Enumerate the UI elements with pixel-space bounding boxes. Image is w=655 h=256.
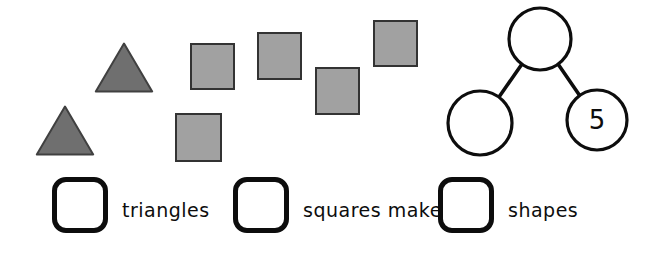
answer-box-triangles[interactable] (52, 177, 108, 233)
fill-in-group-shapes: shapes (438, 177, 578, 233)
answer-box-squares[interactable] (233, 177, 289, 233)
answer-box-shapes[interactable] (438, 177, 494, 233)
worksheet-page: 5 triangles squares make shapes (0, 0, 655, 256)
bond-link-right (558, 64, 580, 96)
bond-part-circle-left[interactable] (448, 91, 512, 155)
answer-label-shapes: shapes (508, 199, 578, 221)
answer-label-squares-make: squares make (303, 199, 442, 221)
triangle-shape (94, 42, 154, 93)
square-shape (190, 43, 235, 90)
square-shape (175, 113, 222, 162)
fill-in-group-squares: squares make (233, 177, 442, 233)
square-shape (373, 20, 418, 67)
bond-whole-circle[interactable] (509, 8, 571, 70)
square-shape (315, 67, 360, 115)
number-bond-diagram: 5 (440, 2, 640, 160)
fill-in-group-triangles: triangles (52, 177, 210, 233)
bond-link-left (499, 64, 522, 97)
bond-part-value-right: 5 (589, 105, 606, 135)
triangle-shape (35, 105, 95, 156)
square-shape (257, 32, 302, 80)
answer-label-triangles: triangles (122, 199, 210, 221)
